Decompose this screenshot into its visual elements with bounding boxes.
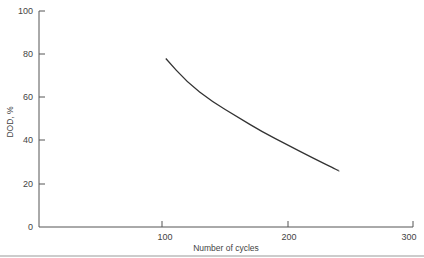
chart: 100 80 60 40 20 0 100 200 300 Number of … xyxy=(0,0,424,258)
y-tick-label: 20 xyxy=(23,179,33,189)
y-tick-label: 40 xyxy=(23,135,33,145)
x-tick-label: 300 xyxy=(401,232,416,242)
x-tick-label: 200 xyxy=(281,232,296,242)
y-tick-label: 0 xyxy=(28,222,33,232)
y-axis-title: DOD, % xyxy=(5,106,15,138)
y-tick-label: 60 xyxy=(23,92,33,102)
y-ticks xyxy=(39,11,45,184)
x-ticks xyxy=(162,221,413,227)
x-tick-label: 100 xyxy=(157,232,172,242)
x-axis-title: Number of cycles xyxy=(193,243,259,253)
dod-curve xyxy=(166,59,339,171)
y-tick-label: 100 xyxy=(18,6,33,16)
y-tick-label: 80 xyxy=(23,49,33,59)
